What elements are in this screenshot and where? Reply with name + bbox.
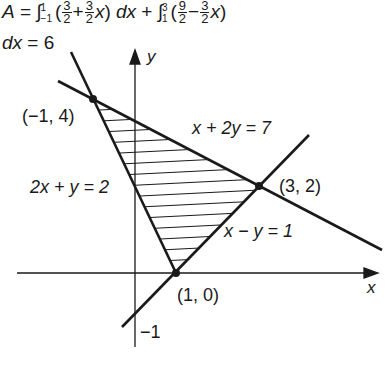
vertex-point: [89, 95, 97, 103]
y-axis-arrow-icon: [130, 50, 140, 64]
equation-label-x-plus-2y: x + 2y = 7: [192, 118, 271, 139]
x-axis-arrow-icon: [364, 268, 378, 278]
y-intercept-label: −1: [140, 322, 161, 343]
point-label-1-0: (1, 0): [177, 285, 219, 306]
y-axis-label: y: [147, 47, 156, 67]
point-label-neg1-4: (−1, 4): [22, 106, 75, 127]
equation-label-2x-plus-y: 2x + y = 2: [30, 177, 109, 198]
point-label-3-2: (3, 2): [279, 176, 321, 197]
vertex-point: [172, 269, 180, 277]
vertex-point: [255, 182, 263, 190]
equation-label-x-minus-y: x − y = 1: [224, 221, 293, 242]
x-axis-label: x: [367, 278, 376, 298]
line-2x-plus-y-eq-2: [71, 52, 176, 273]
